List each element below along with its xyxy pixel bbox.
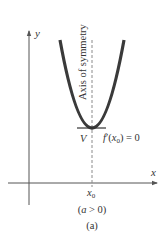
derivative-label: f′(x0) = 0 — [103, 132, 140, 145]
axis-of-symmetry-label: Axis of symmetry — [77, 23, 88, 100]
x0-sub: 0 — [92, 192, 96, 200]
figure-caption: (a) — [86, 220, 98, 232]
x0-label: x0 — [86, 187, 96, 200]
vertex-point — [90, 126, 93, 129]
parabola-diagram: y x Axis of symmetry V f′(x0) = 0 x0 (a … — [0, 0, 167, 244]
vertex-label: V — [80, 133, 88, 144]
condition-rest: > 0) — [86, 204, 106, 216]
y-axis-label: y — [34, 27, 40, 39]
derivative-close: ) = 0 — [120, 132, 140, 144]
parabola-curve — [60, 40, 124, 128]
condition-label: (a > 0) — [78, 204, 107, 216]
x-axis-label: x — [150, 166, 156, 178]
